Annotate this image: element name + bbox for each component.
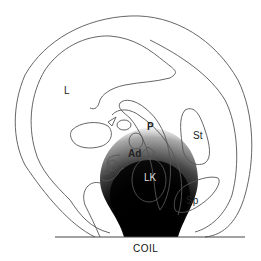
label-left-kidney: LK (144, 172, 157, 183)
label-spleen: Sp (186, 195, 199, 206)
anatomy-diagram: L St P Ad LK Sp COIL (0, 0, 261, 261)
label-stomach: St (193, 130, 203, 141)
label-pancreas: P (147, 121, 154, 132)
label-coil: COIL (133, 243, 158, 254)
duodenum-loop (71, 123, 112, 148)
bowel-loop-left (84, 182, 100, 237)
vessel-portal (108, 117, 116, 126)
label-liver: L (64, 85, 70, 96)
vessel-ivc (117, 120, 131, 130)
label-adrenal: Ad (128, 148, 141, 159)
